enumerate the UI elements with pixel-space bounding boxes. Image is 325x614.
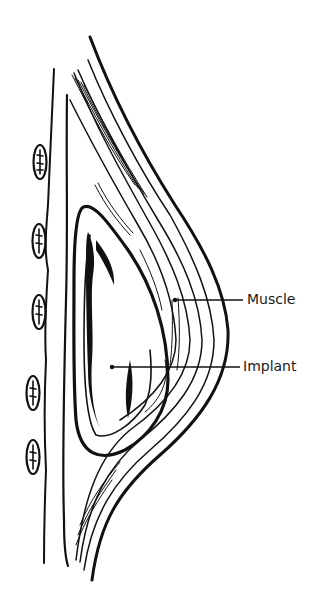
label-implant: Implant bbox=[243, 358, 296, 374]
muscle-pointer-dot bbox=[173, 298, 177, 302]
fascia-line bbox=[63, 95, 68, 566]
ribs bbox=[27, 145, 47, 474]
implant-pointer-dot bbox=[110, 365, 114, 369]
leader-lines bbox=[112, 300, 243, 367]
anatomy-diagram bbox=[0, 0, 325, 614]
implant-texture bbox=[86, 232, 132, 428]
implant-inner bbox=[84, 235, 151, 436]
skin-contour bbox=[90, 37, 228, 580]
label-muscle: Muscle bbox=[247, 291, 295, 307]
